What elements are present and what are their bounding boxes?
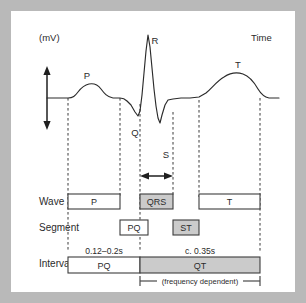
frequency-dependent-label: (frequency dependent) xyxy=(162,277,239,286)
interval-box-qt-label: QT xyxy=(194,261,207,271)
ecg-diagram-svg: (mV) Time P Q R S T xyxy=(11,11,295,292)
segment-box-st-label: ST xyxy=(180,223,192,233)
wave-box-qrs-label: QRS xyxy=(147,197,167,207)
qrs-width-arrow xyxy=(140,173,173,180)
wave-peak-label-r: R xyxy=(152,35,159,46)
row-wave: Wave P QRS T xyxy=(39,194,260,209)
interval-box-pq-label: PQ xyxy=(97,261,110,271)
x-axis-label: Time xyxy=(251,32,272,43)
wave-box-p-label: P xyxy=(91,197,97,207)
wave-peak-label-t: T xyxy=(235,59,241,70)
wave-box-t-label: T xyxy=(227,197,233,207)
row-segment: Segment PQ ST xyxy=(39,220,199,235)
row-label-wave: Wave xyxy=(39,196,65,207)
wave-peak-label-q: Q xyxy=(131,127,138,138)
wave-peak-label-s: S xyxy=(163,149,169,160)
ecg-diagram-panel: (mV) Time P Q R S T xyxy=(11,11,295,292)
frequency-dependent-marker: (frequency dependent) xyxy=(140,276,260,286)
wave-peak-label-p: P xyxy=(84,70,90,81)
row-label-segment: Segment xyxy=(39,222,79,233)
y-axis-label: (mV) xyxy=(39,32,60,43)
row-label-interval: Interval xyxy=(39,258,72,269)
row-interval: Interval 0.12–0.2s c. 0.35s PQ QT (frequ… xyxy=(39,246,260,286)
segment-box-pq-label: PQ xyxy=(127,223,140,233)
interval-duration-qt: c. 0.35s xyxy=(185,246,215,256)
ecg-trace xyxy=(47,35,279,123)
interval-duration-pq: 0.12–0.2s xyxy=(85,246,123,256)
